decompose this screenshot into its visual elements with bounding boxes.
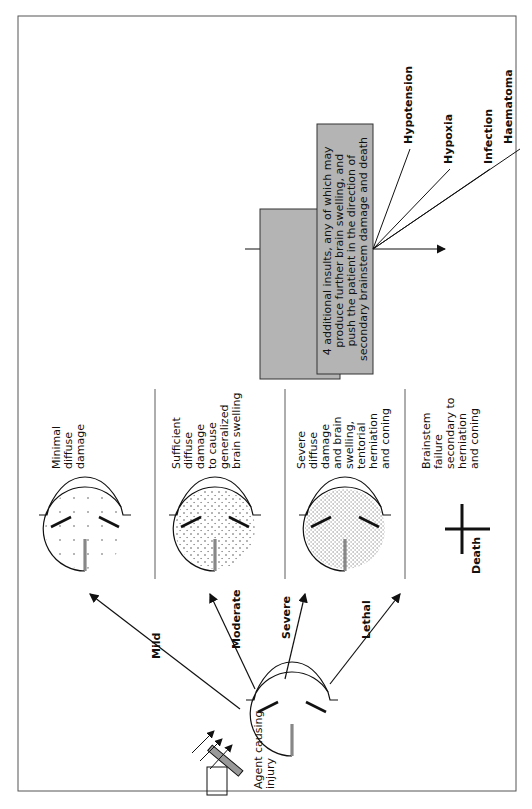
agent-label: Agent causing injury [252,707,277,789]
insult-lines [373,149,520,249]
severity-arrows [90,594,400,709]
path-label-moderate: Moderate [230,590,243,649]
outcome-severe: Severe diffuse damage and brain swelling… [295,408,392,469]
agent-causing-injury-icon [192,731,243,795]
brain-mild-icon [39,477,131,571]
path-label-mild: Mild [150,633,163,659]
outcome-moderate: Sufficient diffuse damage to cause gener… [170,393,243,469]
insult-hypoxia: Hypoxia [442,114,455,164]
insult-infection: Infection [482,109,495,164]
svg-text:4 additional insults, any of w: 4 additional insults, any of which may p… [321,137,370,361]
brain-moderate-icon [169,477,261,571]
insults-box-text: 4 additional insults, any of which may p… [317,124,373,374]
diagram-canvas: Agent causing injury Mild Moderate Sever… [0,0,532,809]
outcome-mild: Minimal diffuse damage [50,422,87,469]
path-label-severe: Severe [280,596,293,639]
brain-severe-icon [299,477,391,571]
death-cross-icon [445,504,490,554]
insult-hypotension: Hypotension [402,66,415,144]
path-label-lethal: Lethal [360,600,373,639]
death-label: Death [470,537,483,574]
outcome-lethal: Brainstem failure secondary to herniatio… [420,394,481,469]
insult-haematoma: Haematoma [502,69,515,144]
